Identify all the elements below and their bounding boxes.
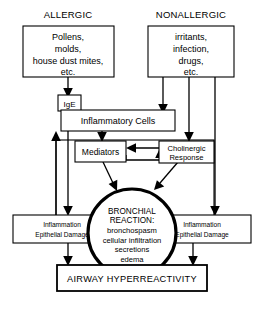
connector-cells-to-inflammation-left [63, 131, 73, 216]
inflammation-right-line-1: Inflammation [183, 221, 221, 228]
bronchial-reaction-line-5: secretions [115, 245, 150, 254]
nonallergic-sources-line-3: drugs, [178, 56, 203, 66]
connector-inflammation-left-to-airway [63, 243, 73, 266]
nonallergic-sources-line-4: etc. [184, 67, 199, 77]
ige-label: IgE [63, 100, 75, 109]
bronchial-reaction-line-1: BRONCHIAL [108, 207, 156, 216]
inflammation-left-line-2: Epithelial Damage [35, 231, 89, 239]
allergic-sources-line-2: molds, [55, 44, 82, 54]
bronchial-reaction-line-3: bronchospasm [107, 226, 157, 235]
connector-inflammation-right-to-airway [188, 243, 198, 266]
connector-cholinergic-to-bronchial [154, 162, 178, 190]
connector-nonallergic-to-cells [158, 77, 168, 114]
header-allergic: ALLERGIC [44, 9, 93, 20]
inflammation-left-line-1: Inflammation [43, 221, 81, 228]
inflammatory-cells-label: Inflammatory Cells [81, 116, 156, 126]
allergic-sources-line-1: Pollens, [52, 32, 84, 42]
asthma-pathophysiology-diagram: ALLERGIC NONALLERGIC Pollens, molds, hou… [0, 0, 263, 313]
cholinergic-response-line-2: Response [169, 153, 203, 162]
header-nonallergic: NONALLERGIC [156, 9, 226, 20]
bronchial-reaction-line-6: edema [120, 255, 144, 264]
cholinergic-response-line-1: Cholinergic [168, 144, 206, 153]
connector-nonallergic-to-cholinergic [184, 77, 194, 142]
inflammation-right-line-2: Epithelial Damage [175, 231, 229, 239]
diagram-canvas: ALLERGIC NONALLERGIC Pollens, molds, hou… [0, 0, 263, 313]
mediators-label: Mediators [82, 147, 119, 157]
nonallergic-sources-line-1: irritants, [175, 32, 207, 42]
connector-mediators-to-bronchial [103, 162, 117, 191]
allergic-sources-line-3: house dust mites, [33, 56, 104, 66]
bronchial-reaction-line-2: REACTION: [110, 216, 155, 225]
airway-hyperreactivity-label: AIRWAY HYPERREACTIVITY [67, 274, 197, 284]
nonallergic-sources-line-2: infection, [173, 44, 209, 54]
bronchial-reaction-line-4: cellular infiltration [103, 236, 162, 245]
allergic-sources-line-4: etc. [61, 67, 76, 77]
